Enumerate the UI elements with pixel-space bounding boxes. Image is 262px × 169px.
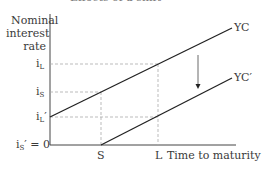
tick-iSp: iS′ = 0 [16, 139, 50, 154]
yc-line [50, 28, 232, 117]
y-axis-label-2: interest [6, 28, 46, 40]
arrow-head-icon [196, 84, 201, 89]
x-axis-label: Time to maturity [167, 150, 261, 162]
tick-L: L [155, 150, 162, 162]
tick-iL: iL [36, 58, 44, 73]
tick-iS: iS [36, 86, 44, 101]
y-axis-label-3: rate [11, 41, 46, 53]
curve-label-yc: YC [234, 22, 250, 34]
tick-S: S [97, 150, 105, 162]
y-axis-label-1: Nominal [11, 15, 46, 27]
curve-label-ycp: YC′ [234, 72, 252, 84]
tick-iLp: iL′ [36, 111, 47, 126]
ycp-line [101, 78, 232, 145]
